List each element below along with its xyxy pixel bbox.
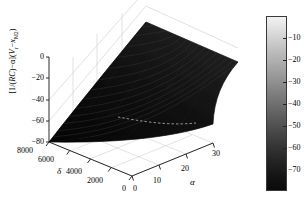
z-tick-0: 0 (14, 53, 44, 61)
delta-tick-4000: 4000 (66, 168, 82, 176)
colorbar-tick-10: −10 (288, 34, 301, 42)
colorbar-tick-60: −60 (288, 144, 301, 152)
delta-tick-8000: 8000 (17, 147, 33, 155)
colorbar-tickmark-20 (283, 60, 287, 61)
colorbar-tickmark-70 (283, 170, 287, 171)
colorbar-tickmark-10 (283, 38, 287, 39)
z-tick-60: −60 (14, 117, 44, 125)
colorbar-tickmark-50 (283, 126, 287, 127)
alpha-tick-0: 0 (133, 185, 137, 193)
delta-tick-6000: 6000 (38, 156, 54, 164)
delta-axis-name: δ (57, 167, 61, 176)
surface-mesh (49, 22, 238, 142)
figure-root: [1/(RC)−α](Vr−xM2) (0, 0, 307, 209)
colorbar-tick-30: −30 (288, 78, 301, 86)
delta-tick-2000: 2000 (87, 177, 103, 185)
colorbar-tickmark-60 (283, 148, 287, 149)
colorbar-tickmark-40 (283, 104, 287, 105)
colorbar-tick-70: −70 (288, 166, 301, 174)
z-tick-80: −80 (14, 138, 44, 146)
alpha-tick-20: 20 (181, 165, 189, 173)
z-tick-20: −20 (14, 74, 44, 82)
alpha-tick-10: 10 (153, 177, 161, 185)
delta-tick-0: 0 (122, 185, 126, 193)
colorbar-tick-40: −40 (288, 100, 301, 108)
alpha-axis-name: α (190, 178, 195, 187)
colorbar-tickmark-30 (283, 82, 287, 83)
colorbar-tick-20: −20 (288, 56, 301, 64)
alpha-tick-30: 30 (212, 150, 220, 158)
z-tick-40: −40 (14, 96, 44, 104)
colorbar-tick-50: −50 (288, 122, 301, 130)
